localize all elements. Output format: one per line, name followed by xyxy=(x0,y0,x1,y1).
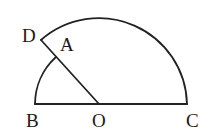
label-d: D xyxy=(22,25,36,46)
label-b: B xyxy=(26,110,39,131)
label-a: A xyxy=(60,34,74,55)
inner-arc-ba xyxy=(35,57,56,104)
label-o: O xyxy=(92,110,106,131)
geometry-diagram: D A B O C xyxy=(0,0,216,136)
outer-arc-dc xyxy=(41,18,187,104)
label-c: C xyxy=(186,110,199,131)
